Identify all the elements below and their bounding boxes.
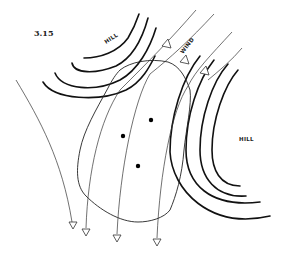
- hill-right-contour-1: [212, 70, 240, 186]
- wind-line-2: [86, 10, 196, 228]
- hill-right-contour-4: [170, 56, 270, 219]
- arrowhead-down-2: [82, 229, 90, 236]
- arrowhead-upper-2: [180, 55, 189, 64]
- hill-right-label: HILL: [239, 136, 254, 142]
- wind-hill-diagram: HILL HILL WIND: [0, 0, 285, 257]
- hill-right-contour-2: [200, 64, 246, 196]
- arrowhead-down-4: [153, 239, 161, 246]
- hill-left-label: HILL: [103, 32, 119, 45]
- observation-point-3: [136, 164, 140, 168]
- observation-points: [121, 118, 153, 168]
- observation-point-2: [121, 134, 125, 138]
- arrowhead-upper-3: [200, 66, 209, 75]
- hill-left-contours: HILL: [43, 14, 156, 98]
- hill-left-contour-2: [72, 18, 148, 72]
- wind-flow-lines: [16, 10, 242, 238]
- observation-point-1: [149, 118, 153, 122]
- wind-label: WIND: [179, 36, 195, 54]
- wind-arrowheads: [69, 39, 209, 246]
- wind-line-1: [16, 80, 72, 222]
- arrowhead-upper-1: [162, 39, 171, 48]
- arrowhead-down-3: [113, 235, 121, 242]
- hill-right-contours: HILL: [170, 56, 270, 219]
- arrowhead-down-1: [69, 222, 77, 229]
